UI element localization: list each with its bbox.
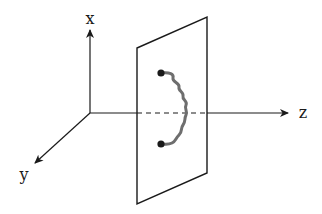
y-axis bbox=[35, 113, 90, 163]
coordinate-diagram: x y z bbox=[0, 0, 322, 214]
string-endpoint-top bbox=[157, 69, 164, 76]
wavy-string bbox=[161, 73, 187, 145]
y-axis-label: y bbox=[18, 165, 28, 184]
plane bbox=[137, 17, 207, 204]
x-axis-label: x bbox=[85, 9, 94, 28]
z-axis-label: z bbox=[299, 103, 307, 122]
string-endpoint-bottom bbox=[157, 140, 164, 147]
